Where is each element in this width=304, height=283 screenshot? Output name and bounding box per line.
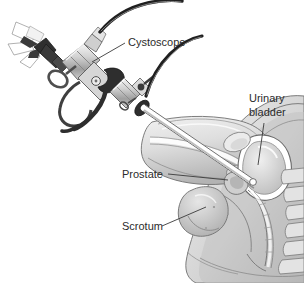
sheath-tip — [250, 179, 257, 186]
stopcock-knob — [138, 84, 145, 91]
bridge-pivot-center — [95, 80, 98, 83]
label-prostate: Prostate — [122, 168, 163, 180]
cystoscopy-illustration: Cystoscope Urinary bladder Prostate Scro… — [0, 0, 304, 283]
tissue-dot — [213, 206, 215, 208]
label-urinary-bladder-line1: Urinary — [249, 92, 285, 104]
label-scrotum: Scrotum — [122, 220, 163, 232]
label-urinary-bladder-line2: bladder — [249, 106, 286, 118]
tissue-dot — [227, 213, 229, 215]
label-cystoscope: Cystoscope — [128, 36, 185, 48]
tissue-dot — [205, 227, 207, 229]
